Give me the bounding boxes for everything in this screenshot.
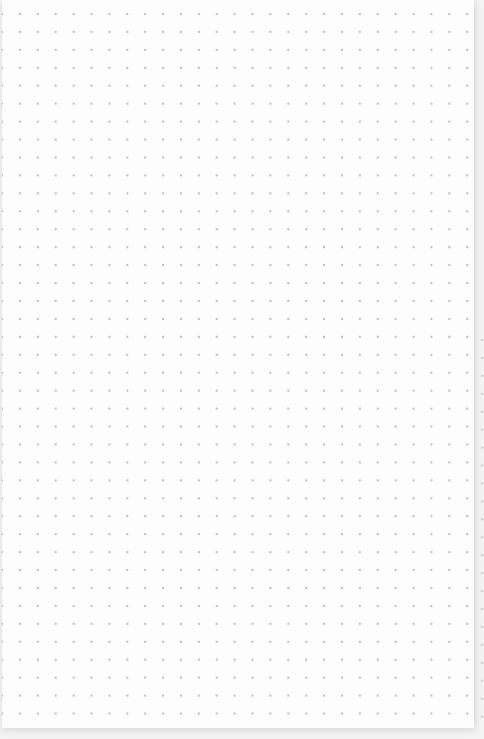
adjacent-page-edge (480, 330, 484, 730)
dot-grid-canvas[interactable] (2, 0, 474, 728)
